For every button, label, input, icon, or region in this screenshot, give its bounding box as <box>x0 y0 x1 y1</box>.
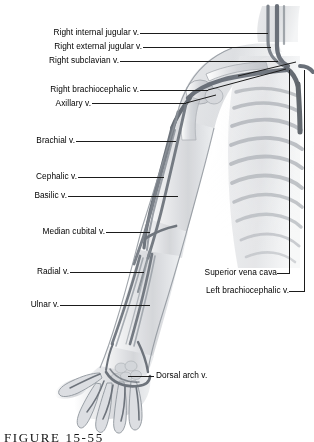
leader-right-internal-jugular <box>140 33 268 34</box>
label-left-brachiocephalic: Left brachiocephalic v. <box>160 286 289 295</box>
leader-left-brachiocephalic-vertical <box>304 70 305 292</box>
label-median-cubital: Median cubital v. <box>0 227 105 236</box>
label-right-external-jugular: Right external jugular v. <box>0 42 142 51</box>
leader-radial <box>70 272 144 273</box>
label-cephalic: Cephalic v. <box>0 172 77 181</box>
leader-right-subclavian <box>120 61 278 62</box>
leader-right-external-jugular <box>143 47 271 48</box>
leader-dorsal-arch <box>128 376 154 377</box>
leader-axillary <box>92 103 186 104</box>
leader-cephalic <box>78 177 164 178</box>
label-ulnar: Ulnar v. <box>0 300 59 309</box>
label-axillary: Axillary v. <box>0 99 91 108</box>
leader-superior-vena-cava <box>277 273 290 274</box>
label-right-internal-jugular: Right internal jugular v. <box>0 28 139 37</box>
leader-left-brachiocephalic <box>289 291 305 292</box>
label-superior-vena-cava: Superior vena cava <box>160 268 277 277</box>
label-radial: Radial v. <box>0 267 69 276</box>
leader-ulnar <box>60 305 150 306</box>
leader-superior-vena-cava-vertical <box>289 70 290 274</box>
label-brachial: Brachial v. <box>0 136 75 145</box>
figure-caption: FIGURE 15-55 <box>4 430 104 442</box>
label-dorsal-arch: Dorsal arch v. <box>156 371 207 380</box>
leader-median-cubital <box>106 232 150 233</box>
label-right-brachiocephalic: Right brachiocephalic v. <box>0 85 139 94</box>
label-basilic: Basilic v. <box>0 191 67 200</box>
leader-right-brachiocephalic <box>140 90 208 91</box>
leader-basilic <box>68 196 178 197</box>
leader-brachial <box>76 141 176 142</box>
label-right-subclavian: Right subclavian v. <box>0 56 119 65</box>
